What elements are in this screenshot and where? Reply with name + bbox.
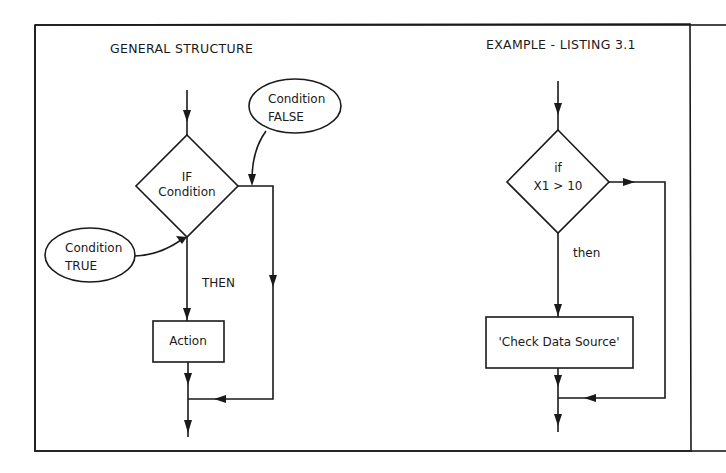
false-connector-curve <box>252 131 266 180</box>
false-label-line1: Condition <box>268 92 325 106</box>
decision-text-condition: Condition <box>158 185 215 199</box>
arrow-down-icon <box>248 174 256 186</box>
action-label: 'Check Data Source' <box>498 335 619 349</box>
general-title: GENERAL STRUCTURE <box>110 41 253 56</box>
decision-text-if: IF <box>182 170 193 184</box>
arrow-down-icon <box>269 275 277 287</box>
false-label-line2: FALSE <box>268 110 304 124</box>
true-label-line2: TRUE <box>64 259 97 273</box>
arrow-down-icon <box>184 420 192 433</box>
arrow-down-icon <box>554 103 562 115</box>
arrow-down-icon <box>554 375 562 387</box>
diagram-border <box>35 24 691 451</box>
example-title: EXAMPLE - LISTING 3.1 <box>486 37 636 52</box>
flowchart-canvas: GENERAL STRUCTURE IF Condition Condition… <box>0 0 726 473</box>
example-panel: EXAMPLE - LISTING 3.1 if X1 > 10 then 'C… <box>486 37 665 432</box>
arrow-down-icon <box>184 373 192 385</box>
arrow-down-icon <box>554 414 562 426</box>
arrow-left-icon <box>214 395 226 403</box>
decision-text-condition: X1 > 10 <box>534 179 583 193</box>
true-connector-curve <box>135 240 181 256</box>
arrow-down-icon <box>183 110 191 122</box>
diagram-frame <box>35 25 726 451</box>
condition-false-ellipse <box>249 79 341 133</box>
arrow-down-icon <box>554 304 562 316</box>
action-label: Action <box>169 334 207 348</box>
decision-text-if: if <box>554 161 562 175</box>
true-label-line1: Condition <box>65 241 122 255</box>
condition-true-ellipse <box>45 228 135 282</box>
arrow-down-icon <box>183 308 191 320</box>
then-label: THEN <box>201 276 235 290</box>
arrow-left-icon <box>584 394 596 402</box>
arrow-right-icon <box>623 178 635 186</box>
general-structure-panel: GENERAL STRUCTURE IF Condition Condition… <box>45 41 341 437</box>
then-label: then <box>573 246 600 260</box>
